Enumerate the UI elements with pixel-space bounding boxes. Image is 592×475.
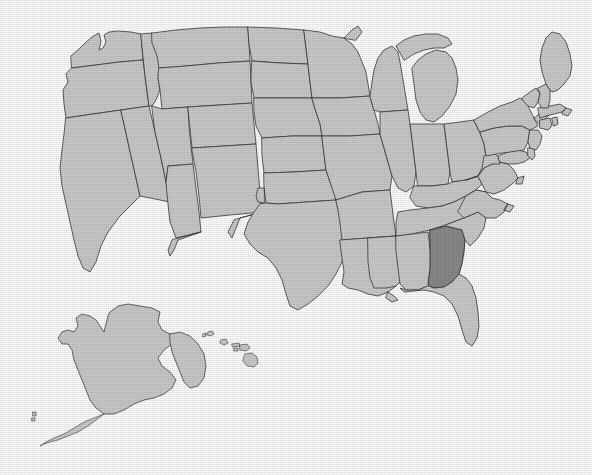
island-lanai[interactable] [234, 348, 238, 351]
state-ND[interactable] [248, 27, 308, 64]
state-CO[interactable] [188, 103, 256, 148]
state-WY[interactable] [158, 61, 252, 109]
island-niihau[interactable] [203, 333, 206, 337]
state-IA[interactable] [312, 96, 380, 136]
state-OK[interactable] [256, 170, 336, 204]
us-map-figure: Map of the United States with one state … [0, 0, 592, 475]
island-molokai[interactable] [232, 343, 240, 347]
us-states-map[interactable] [0, 0, 592, 475]
state-CT[interactable] [540, 118, 552, 130]
state-SD[interactable] [251, 61, 312, 98]
state-NE[interactable] [254, 98, 322, 138]
state-AR[interactable] [336, 190, 396, 240]
aleutian-speck-1[interactable] [33, 412, 36, 416]
state-MO[interactable] [322, 134, 392, 200]
state-KS[interactable] [262, 136, 326, 173]
aleutian-speck-2[interactable] [32, 418, 35, 421]
